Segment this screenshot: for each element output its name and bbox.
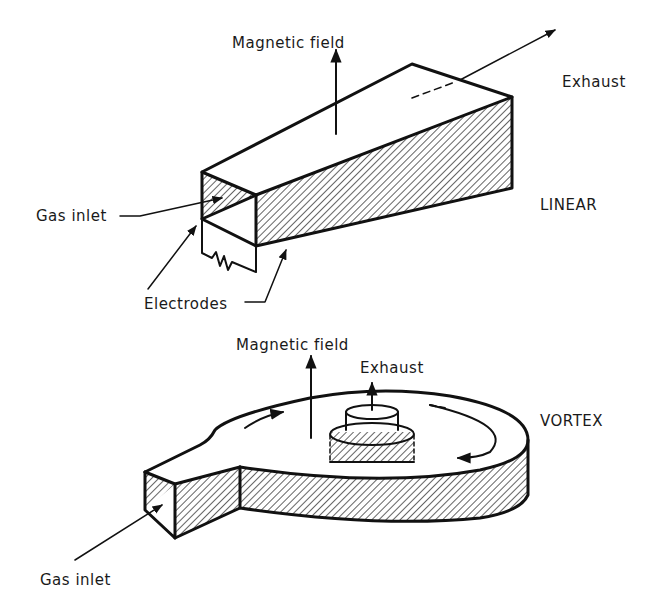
linear-inlet-front-face [202,172,256,219]
vortex-exhaust-port [330,405,414,462]
linear-exhaust-label: Exhaust [562,73,626,91]
mhd-generator-diagram: Magnetic field Exhaust Gas inlet Electro… [0,0,667,599]
diagram-canvas: Magnetic field Exhaust Gas inlet Electro… [0,0,667,599]
linear-generator: Magnetic field Exhaust Gas inlet Electro… [36,30,626,313]
linear-magnetic-field-label: Magnetic field [232,34,345,52]
linear-title: LINEAR [540,196,597,214]
linear-electrodes-label: Electrodes [144,295,228,313]
vortex-exhaust-label: Exhaust [360,359,424,377]
vortex-generator: Magnetic field Exhaust Gas inlet VORTEX [40,336,603,589]
linear-channel-side-face [256,97,512,246]
linear-gas-inlet-label: Gas inlet [36,207,107,225]
vortex-title: VORTEX [540,412,603,430]
vortex-magnetic-field-label: Magnetic field [236,336,349,354]
vortex-gas-inlet-label: Gas inlet [40,571,111,589]
vortex-inlet-side-face [175,467,240,538]
